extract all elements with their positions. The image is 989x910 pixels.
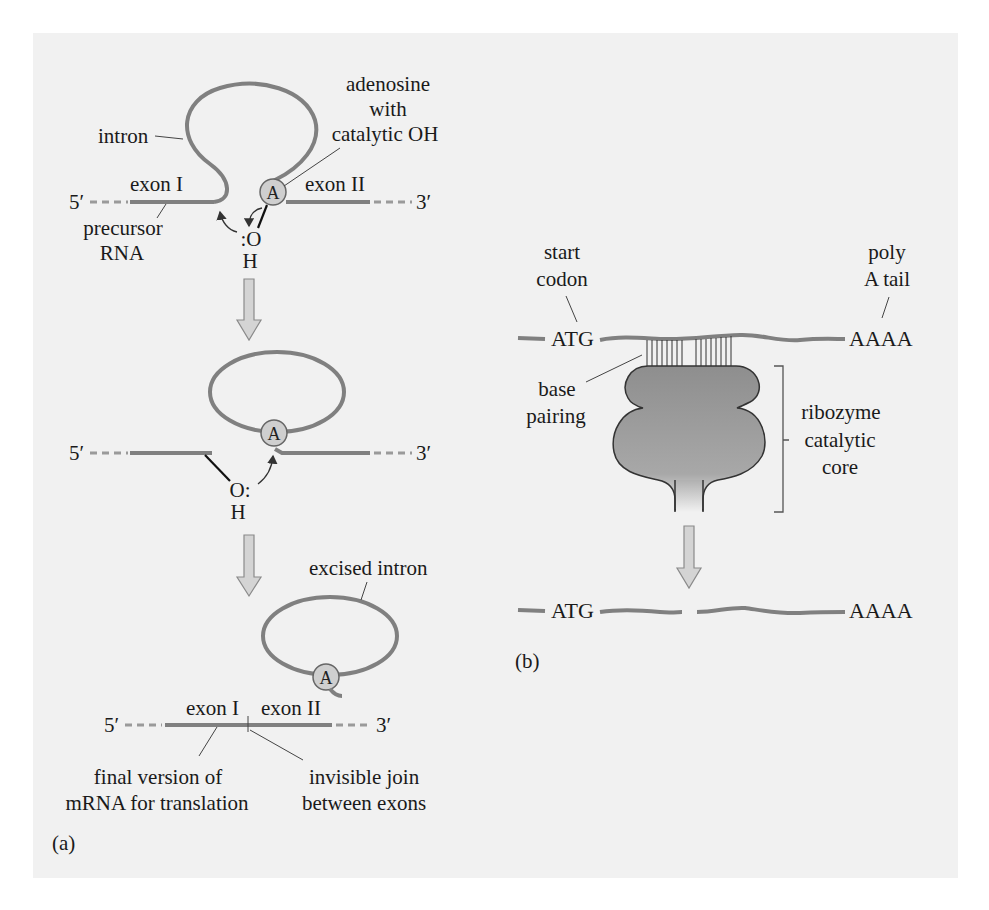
ribozyme-label-1: ribozyme (801, 400, 880, 424)
hydroxyl-o-label: :O (241, 227, 262, 251)
figure-panel-background (33, 33, 958, 878)
poly-a-label-1: poly (868, 240, 906, 264)
aaaa-label: AAAA (849, 326, 913, 351)
product-atg-label: ATG (551, 598, 594, 623)
hydroxyl-o-label-step2: O: (230, 478, 251, 502)
exon1-label-step3: exon I (186, 696, 239, 720)
mrna-5prime-stub (518, 338, 545, 339)
adenosine-glyph: A (267, 183, 280, 203)
join-label-1: invisible join (309, 765, 420, 789)
poly-a-label-2: A tail (864, 267, 910, 291)
ribozyme-stem-fill (676, 480, 702, 512)
adenosine-glyph-step2: A (268, 424, 281, 444)
exon2-label: exon II (305, 172, 365, 196)
precursor-label-2: RNA (100, 241, 145, 265)
panel-b-label: (b) (515, 649, 540, 673)
exon2-label-step3: exon II (261, 696, 321, 720)
three-prime-label: 3′ (416, 190, 431, 214)
hydroxyl-h-label-step2: H (230, 500, 245, 524)
join-label-2: between exons (302, 791, 426, 815)
product-5prime-stub (518, 610, 545, 611)
adenosine-label-2: with (369, 97, 407, 121)
precursor-label-1: precursor (83, 216, 162, 240)
adenosine-label-1: adenosine (346, 72, 430, 96)
atg-label: ATG (551, 326, 594, 351)
intron-label: intron (98, 124, 149, 148)
base-pairing-label-1: base (538, 377, 575, 401)
final-mrna-label-1: final version of (94, 765, 222, 789)
excised-intron-label: excised intron (309, 556, 428, 580)
adenosine-glyph-step3: A (320, 668, 333, 688)
panel-a-label: (a) (52, 831, 75, 855)
product-aaaa-label: AAAA (849, 598, 913, 623)
final-mrna-label-2: mRNA for translation (65, 791, 249, 815)
start-codon-label-2: codon (536, 267, 588, 291)
five-prime-label-step3: 5′ (104, 713, 119, 737)
five-prime-label: 5′ (69, 190, 84, 214)
rna-splicing-ribozyme-figure: A intron adenosine with catalytic OH exo… (0, 0, 989, 910)
exon1-label: exon I (130, 172, 183, 196)
adenosine-label-3: catalytic OH (332, 122, 439, 146)
five-prime-label-step2: 5′ (69, 441, 84, 465)
ribozyme-label-3: core (822, 455, 858, 479)
three-prime-label-step2: 3′ (416, 441, 431, 465)
hydroxyl-h-label: H (242, 249, 257, 273)
product-fragment-1 (600, 610, 682, 612)
start-codon-label-1: start (544, 240, 580, 264)
three-prime-label-step3: 3′ (376, 713, 391, 737)
ribozyme-label-2: catalytic (804, 428, 875, 452)
base-pairing-label-2: pairing (526, 404, 586, 428)
